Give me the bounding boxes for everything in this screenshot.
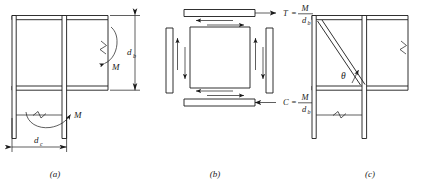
column-depth-subscript: c — [40, 141, 43, 147]
compression-force-label: C = M d b — [283, 92, 313, 115]
technical-diagram: d b d c M M (a) — [0, 0, 440, 190]
brace-angle-label: θ — [341, 71, 346, 81]
panel-c-column-left-flange — [312, 16, 316, 139]
right-flange-bar — [266, 28, 273, 93]
left-flange-bar — [166, 28, 173, 93]
tension-denominator: d — [302, 15, 307, 25]
panel-c-beam-top-flange — [312, 16, 408, 20]
compression-denominator: d — [302, 104, 307, 114]
bottom-shear-arrow-pair — [196, 91, 244, 96]
beam-break-symbol — [100, 41, 107, 54]
panel-c: θ (c) — [312, 16, 408, 180]
top-flange-bar — [184, 10, 255, 17]
beam-moment-label: M — [111, 62, 120, 72]
left-shear-arrow-pair — [178, 38, 186, 79]
tension-denominator-subscript: b — [308, 20, 311, 26]
compression-relation: = — [291, 97, 297, 107]
panel-c-beam-bottom-flange — [312, 86, 408, 90]
compression-lhs: C — [283, 97, 289, 107]
beam-depth-symbol: d — [127, 47, 132, 57]
panel-b-caption: (b) — [210, 169, 221, 179]
panel-c-caption: (c) — [365, 169, 375, 179]
panel-a: d b d c M M (a) — [12, 16, 140, 180]
tension-relation: = — [291, 8, 297, 18]
figure-canvas: d b d c M M (a) — [0, 0, 440, 190]
beam-bottom-flange — [12, 86, 108, 90]
compression-denominator-subscript: b — [308, 109, 311, 115]
top-shear-arrow-pair — [196, 21, 244, 26]
column-depth-label: d c — [34, 135, 43, 147]
beam-top-flange — [12, 16, 108, 20]
column-depth-symbol: d — [34, 135, 39, 145]
beam-depth-subscript: b — [133, 53, 136, 59]
column-moment-label: M — [73, 110, 82, 120]
panel-a-caption: (a) — [50, 169, 61, 179]
column-left-flange — [12, 16, 16, 139]
panel-c-column-right-flange — [362, 16, 367, 139]
right-shear-arrow-pair — [256, 38, 264, 79]
compression-numerator: M — [300, 92, 309, 102]
bottom-flange-bar — [184, 99, 255, 106]
tension-numerator: M — [300, 3, 309, 13]
tension-lhs: T — [283, 8, 289, 18]
panel-b: T = M d b C = M d b (b) — [166, 3, 313, 179]
panel-zone-square — [190, 27, 250, 88]
tension-force-label: T = M d b — [283, 3, 313, 26]
panel-c-beam-break-symbol — [400, 41, 407, 54]
